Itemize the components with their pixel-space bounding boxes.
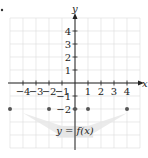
function-label: y = f(x): [55, 125, 94, 136]
x-tick-label: 2: [98, 86, 104, 97]
y-tick-label: −2: [56, 104, 71, 115]
x-axis-label: x: [142, 78, 148, 89]
y-tick-label: 1: [65, 65, 71, 76]
y-tick-label: 2: [65, 52, 71, 63]
y-tick-label: −1: [56, 91, 71, 102]
y-tick-label: 3: [65, 39, 71, 50]
coordinate-plane: −4−3−2−112344321−1−2 x y y = f(x): [0, 0, 148, 158]
bullet-dot: [1, 9, 3, 11]
data-point: [86, 107, 90, 111]
data-point: [47, 107, 51, 111]
y-tick-label: 4: [65, 26, 71, 37]
data-point: [73, 107, 77, 111]
x-tick-label: 3: [111, 86, 117, 97]
y-axis-label: y: [71, 3, 78, 14]
data-point: [8, 107, 12, 111]
data-point: [125, 107, 129, 111]
x-tick-label: 4: [124, 86, 130, 97]
x-tick-label: 1: [85, 86, 91, 97]
